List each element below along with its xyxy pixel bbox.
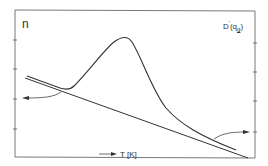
n-line xyxy=(25,78,248,158)
right-axis-arg: (q xyxy=(230,22,237,31)
left-axis-label: n xyxy=(22,17,29,31)
x-axis-arrow xyxy=(99,152,117,156)
x-axis-label: T [K] xyxy=(120,150,137,159)
right-axis-close: ) xyxy=(240,22,243,31)
right-axis-label: D'(qg) xyxy=(223,20,243,32)
right-axis-arrow xyxy=(214,130,250,139)
left-axis-arrow xyxy=(22,92,61,100)
